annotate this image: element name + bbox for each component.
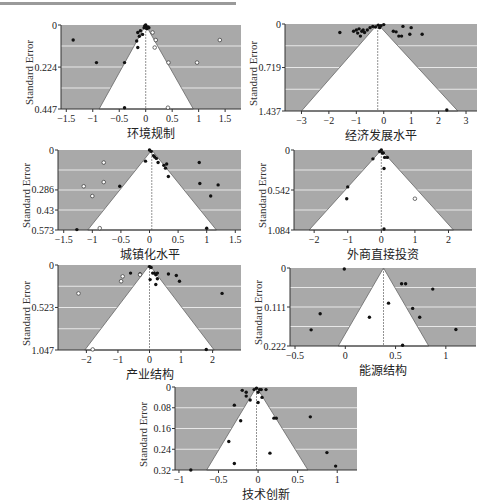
funnel-plot-svg: 00.080.160.240.32−1−0.500.51 [0, 0, 482, 503]
svg-text:0.08: 0.08 [154, 402, 172, 413]
study-point [227, 440, 230, 443]
svg-text:0.5: 0.5 [291, 474, 304, 485]
study-point [248, 398, 251, 401]
svg-text:0.24: 0.24 [154, 444, 172, 455]
svg-text:−0.5: −0.5 [209, 474, 227, 485]
study-point [241, 389, 244, 392]
study-point [260, 388, 263, 391]
study-point [334, 464, 337, 467]
study-point [233, 462, 236, 465]
svg-text:1: 1 [335, 474, 340, 485]
study-point [309, 415, 312, 418]
study-point [264, 388, 267, 391]
svg-text:0: 0 [256, 474, 261, 485]
x-axis-label: 技术创新 [175, 485, 357, 502]
study-point [239, 419, 242, 422]
study-point [256, 401, 259, 404]
study-point [233, 403, 236, 406]
study-point [189, 468, 192, 471]
study-point [245, 394, 248, 397]
study-point [260, 396, 263, 399]
study-point [325, 451, 328, 454]
svg-text:0: 0 [166, 382, 171, 393]
y-axis-label: Standard Error [137, 401, 149, 466]
svg-text:0.32: 0.32 [154, 465, 172, 476]
svg-text:0.16: 0.16 [154, 423, 172, 434]
study-point [275, 416, 278, 419]
study-point [255, 387, 258, 390]
study-point [245, 390, 248, 393]
svg-text:−1: −1 [174, 474, 185, 485]
study-point [268, 451, 271, 454]
